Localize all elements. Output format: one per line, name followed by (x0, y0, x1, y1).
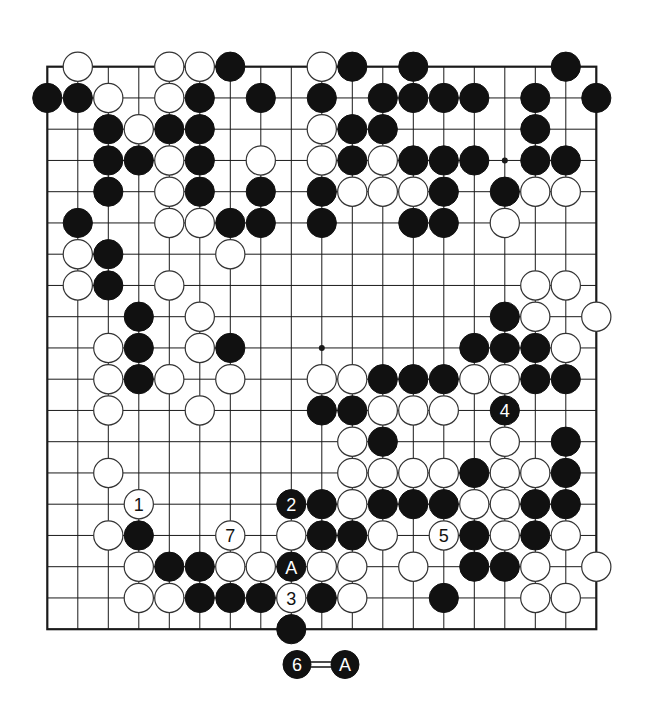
black-stone (460, 333, 489, 362)
stone-disc (582, 552, 611, 581)
stone-disc (155, 208, 184, 237)
stone-disc (94, 271, 123, 300)
white-stone (155, 146, 184, 175)
stone-disc (368, 490, 397, 519)
stone-disc (521, 521, 550, 550)
white-stone (185, 333, 214, 362)
stone-disc (94, 396, 123, 425)
white-stone (521, 302, 550, 331)
white-stone (155, 52, 184, 81)
white-stone (399, 177, 428, 206)
black-stone (490, 552, 519, 581)
stone-disc (185, 552, 214, 581)
stone-disc (551, 271, 580, 300)
black-stone (63, 83, 92, 112)
stone-disc (399, 552, 428, 581)
white-stone (307, 146, 336, 175)
stone-disc (460, 365, 489, 394)
stone-disc (490, 333, 519, 362)
black-stone-4: 4 (490, 396, 519, 425)
black-stone (521, 83, 550, 112)
move-label: 4 (500, 401, 510, 421)
stone-disc (460, 458, 489, 487)
stone-disc (399, 365, 428, 394)
stone-disc (94, 333, 123, 362)
white-stone (490, 365, 519, 394)
stone-disc (124, 365, 153, 394)
white-stone (490, 458, 519, 487)
white-stone (338, 427, 367, 456)
star-point (319, 345, 325, 351)
white-stone-1: 1 (124, 490, 153, 519)
black-stone (399, 490, 428, 519)
black-stone (338, 146, 367, 175)
white-stone (124, 552, 153, 581)
stone-disc (582, 302, 611, 331)
white-stone (551, 333, 580, 362)
stone-disc (521, 583, 550, 612)
stone-disc (490, 365, 519, 394)
white-stone (307, 52, 336, 81)
stone-disc (399, 396, 428, 425)
black-stone (307, 396, 336, 425)
stone-disc (338, 365, 367, 394)
black-stone (94, 177, 123, 206)
white-stone (368, 396, 397, 425)
stone-disc (185, 83, 214, 112)
stone-disc (185, 333, 214, 362)
move-label: 5 (439, 526, 449, 546)
black-stone (368, 427, 397, 456)
caption-label-a: A (339, 655, 351, 675)
black-stone (521, 365, 550, 394)
move-caption: 6 A (283, 651, 359, 679)
stone-disc (338, 115, 367, 144)
black-stone (307, 83, 336, 112)
stone-disc (124, 302, 153, 331)
stone-disc (429, 83, 458, 112)
stone-disc (429, 177, 458, 206)
stone-disc (63, 271, 92, 300)
white-stone (460, 365, 489, 394)
black-stone (307, 490, 336, 519)
black-stone (185, 146, 214, 175)
stone-disc (307, 490, 336, 519)
black-stone (460, 458, 489, 487)
black-stone (551, 490, 580, 519)
black-stone (399, 146, 428, 175)
stone-disc (63, 240, 92, 269)
black-stone (155, 552, 184, 581)
stone-disc (368, 427, 397, 456)
black-stone (368, 365, 397, 394)
white-stone (338, 552, 367, 581)
stone-disc (185, 583, 214, 612)
stone-disc (551, 521, 580, 550)
black-stone-2: 2 (277, 490, 306, 519)
black-stone (124, 146, 153, 175)
black-stone (521, 115, 550, 144)
stone-disc (338, 427, 367, 456)
stone-disc (368, 177, 397, 206)
white-stone (338, 583, 367, 612)
black-stone (246, 208, 275, 237)
black-stone (94, 240, 123, 269)
black-stone (33, 83, 62, 112)
stone-disc (429, 208, 458, 237)
white-stone (246, 146, 275, 175)
stone-disc (368, 115, 397, 144)
black-stone (216, 583, 245, 612)
stone-disc (338, 146, 367, 175)
white-stone (185, 302, 214, 331)
stone-disc (399, 490, 428, 519)
stone-disc (94, 365, 123, 394)
white-stone (551, 521, 580, 550)
stone-disc (368, 458, 397, 487)
white-stone (155, 177, 184, 206)
white-stone (185, 396, 214, 425)
white-stone (429, 396, 458, 425)
stone-disc (429, 396, 458, 425)
stone-disc (490, 208, 519, 237)
black-stone (368, 115, 397, 144)
stone-disc (185, 177, 214, 206)
black-stone (551, 427, 580, 456)
stone-disc (124, 552, 153, 581)
